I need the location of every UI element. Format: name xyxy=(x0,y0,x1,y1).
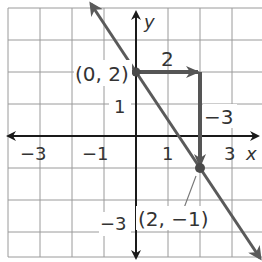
point-label-2-neg1: (2, −1) xyxy=(138,207,209,231)
point-label-0-2: (0, 2) xyxy=(75,62,129,86)
point-0-2 xyxy=(132,68,141,77)
tick-y-1: 1 xyxy=(114,96,125,117)
y-axis-label: y xyxy=(143,11,155,32)
tick-y-neg3: −3 xyxy=(100,213,127,234)
x-axis-label: x xyxy=(245,143,257,164)
tick-x-neg3: −3 xyxy=(20,143,47,164)
rise-label: −3 xyxy=(204,105,233,129)
axes xyxy=(8,12,258,258)
run-label: 2 xyxy=(161,47,174,71)
tick-x-neg1: −1 xyxy=(82,143,109,164)
point-2-neg1 xyxy=(195,163,205,173)
tick-x-1: 1 xyxy=(162,143,173,164)
leader-line xyxy=(184,176,196,208)
tick-x-3: 3 xyxy=(224,143,235,164)
coordinate-plane: (0, 2) 2 −3 (2, −1) −3 −1 1 3 x 1 −3 y xyxy=(0,0,262,262)
